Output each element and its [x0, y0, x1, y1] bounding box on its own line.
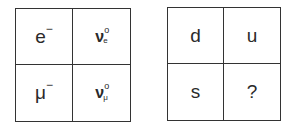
cell-strange-quark: s	[168, 64, 224, 120]
cell-electron: e−	[16, 9, 73, 65]
cell-electron-neutrino: νoe	[73, 9, 130, 65]
down-quark-symbol: d	[190, 25, 201, 47]
unknown-symbol: ?	[247, 81, 258, 103]
electron-symbol: e	[35, 26, 46, 48]
muon-charge: −	[46, 78, 53, 92]
muon-neutrino-flavor: μ	[103, 93, 108, 102]
muon-neutrino-charge: o	[104, 81, 109, 91]
cell-down-quark: d	[168, 8, 224, 64]
cell-muon-neutrino: νoμ	[73, 65, 130, 121]
cell-muon: μ−	[16, 65, 73, 121]
muon-symbol: μ	[35, 82, 46, 104]
electron-charge: −	[46, 22, 53, 36]
up-quark-symbol: u	[247, 25, 258, 47]
strange-quark-symbol: s	[191, 81, 201, 103]
electron-neutrino-flavor: e	[103, 36, 107, 45]
lepton-grid: e− νoe μ− νoμ	[15, 8, 131, 122]
cell-unknown: ?	[224, 64, 280, 120]
quark-grid: d u s ?	[167, 7, 281, 121]
cell-up-quark: u	[224, 8, 280, 64]
electron-neutrino-charge: o	[104, 25, 109, 35]
